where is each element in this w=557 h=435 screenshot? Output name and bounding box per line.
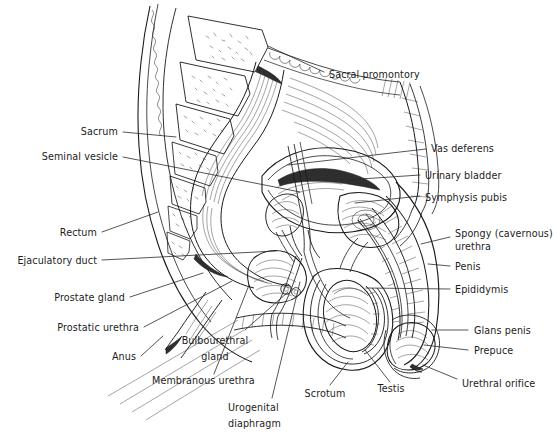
label-urogenital-diaphragm-line1: Urogenital bbox=[228, 402, 279, 413]
label-sacral-promontory: Sacral promontory bbox=[329, 69, 420, 80]
label-rectum: Rectum bbox=[60, 227, 97, 238]
label-prostate-gland: Prostate gland bbox=[54, 292, 125, 303]
label-symphysis-pubis: Symphysis pubis bbox=[425, 192, 507, 203]
label-bulbourethral-gland-line1: Bulbourethral bbox=[182, 335, 249, 346]
label-spongy-urethra-line1: Spongy (cavernous) bbox=[455, 228, 553, 239]
label-penis: Penis bbox=[455, 261, 481, 272]
label-ejaculatory-duct: Ejaculatory duct bbox=[17, 255, 97, 266]
label-scrotum: Scrotum bbox=[305, 388, 346, 399]
label-urinary-bladder: Urinary bladder bbox=[425, 170, 501, 181]
label-epididymis: Epididymis bbox=[455, 284, 508, 295]
label-sacrum: Sacrum bbox=[81, 126, 118, 137]
anatomy-figure: Sacral promontory Sacrum Seminal vesicle… bbox=[0, 0, 557, 435]
anatomy-illustration: Sacral promontory Sacrum Seminal vesicle… bbox=[0, 0, 557, 435]
label-anus: Anus bbox=[112, 351, 136, 362]
label-seminal-vesicle: Seminal vesicle bbox=[42, 151, 118, 162]
label-vas-deferens: Vas deferens bbox=[431, 143, 494, 154]
label-prepuce: Prepuce bbox=[474, 345, 513, 356]
label-testis: Testis bbox=[376, 383, 404, 394]
label-prostatic-urethra: Prostatic urethra bbox=[57, 322, 139, 333]
label-spongy-urethra-line2: urethra bbox=[455, 241, 491, 252]
label-urethral-orifice: Urethral orifice bbox=[462, 378, 535, 389]
label-glans-penis: Glans penis bbox=[474, 325, 531, 336]
label-urogenital-diaphragm-line2: diaphragm bbox=[228, 418, 281, 429]
label-membranous-urethra: Membranous urethra bbox=[152, 375, 255, 386]
label-bulbourethral-gland-line2: gland bbox=[201, 351, 228, 362]
